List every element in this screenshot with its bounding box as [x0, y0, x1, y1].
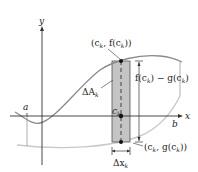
f-ck-point [119, 59, 123, 63]
y-axis-arrow-icon [40, 26, 44, 31]
x-axis-label: x [185, 111, 190, 121]
top-point-label: (ck, f(ck)) [91, 38, 131, 49]
delta-x-label: Δxk [113, 158, 129, 169]
delta-x-left-arrow-icon [112, 150, 115, 153]
top-point-leader [108, 49, 120, 59]
a-label: a [23, 102, 28, 112]
f-curve [15, 56, 182, 124]
bottom-point-label: (ck, g(ck)) [144, 142, 187, 153]
height-arrow-down-icon [138, 137, 141, 141]
g-curve [17, 96, 180, 148]
area-between-curves-diagram: y x a b (ck, f(ck)) f(ck) − g(ck) ΔAk ck… [0, 0, 198, 172]
height-label: f(ck) − g(ck) [135, 73, 189, 84]
strip-rectangle [112, 61, 130, 142]
g-ck-point [119, 140, 123, 144]
bottom-point-leader [133, 143, 143, 146]
delta-a-label: ΔAk [82, 87, 99, 98]
b-label: b [172, 119, 178, 129]
delta-a-leader [101, 80, 113, 88]
y-axis-label: y [38, 16, 45, 26]
x-axis-arrow-icon [178, 114, 183, 118]
height-arrow-up-icon [138, 62, 141, 66]
delta-x-right-arrow-icon [127, 150, 130, 153]
